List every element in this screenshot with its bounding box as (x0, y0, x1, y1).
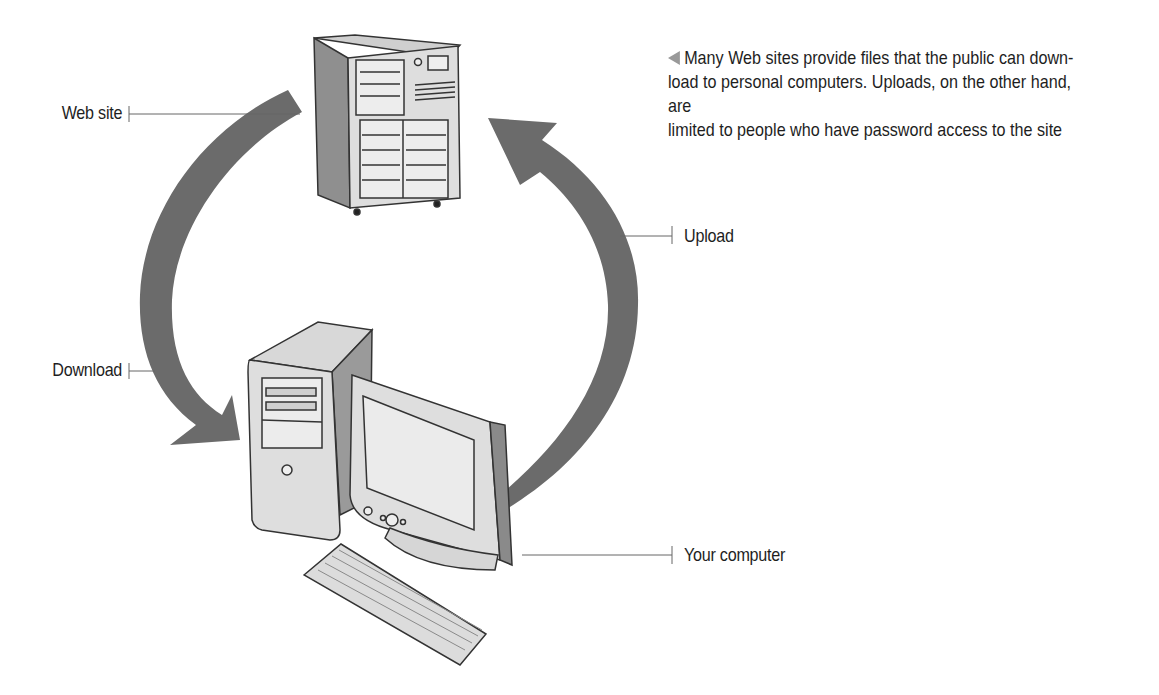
upload-arrow (488, 118, 638, 510)
label-upload: Upload (684, 225, 734, 247)
caption-line-2: load to personal computers. Uploads, on … (668, 70, 1093, 118)
label-your-computer: Your computer (684, 544, 785, 566)
caption-line-1: Many Web sites provide files that the pu… (668, 46, 1093, 70)
server-illustration (314, 35, 460, 215)
label-web-site: Web site (62, 102, 122, 124)
figure-caption: Many Web sites provide files that the pu… (668, 46, 1093, 142)
label-download: Download (52, 359, 122, 381)
caption-line-3: limited to people who have password acce… (668, 118, 1093, 142)
monitor-illustration (350, 375, 512, 570)
left-triangle-icon (668, 51, 680, 65)
